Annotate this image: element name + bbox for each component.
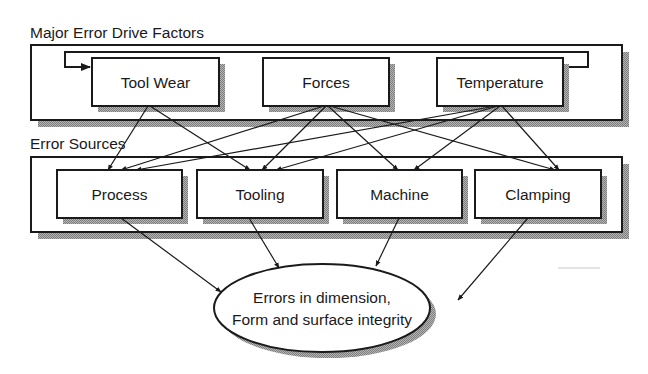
node-label: Temperature [456,74,543,91]
outcome-label-line1: Errors in dimension, [253,289,391,306]
node-machine[interactable]: Machine [337,170,468,224]
outcome-label-line2: Form and surface integrity [232,311,412,328]
node-label: Process [92,186,148,203]
node-label: Machine [370,186,429,203]
node-process[interactable]: Process [57,170,188,224]
node-tool-wear[interactable]: Tool Wear [92,58,225,112]
node-label: Clamping [505,186,570,203]
error-factors-diagram: Tool Wear Forces Temperature Process Too… [0,0,648,374]
node-clamping[interactable]: Clamping [475,170,607,224]
node-label: Forces [302,74,350,91]
node-label: Tool Wear [121,74,191,91]
node-tooling[interactable]: Tooling [197,170,329,224]
node-temperature[interactable]: Temperature [437,58,569,112]
node-label: Tooling [235,186,284,203]
outcome-node[interactable]: Errors in dimension, Form and surface in… [214,264,436,358]
node-forces[interactable]: Forces [263,58,395,112]
